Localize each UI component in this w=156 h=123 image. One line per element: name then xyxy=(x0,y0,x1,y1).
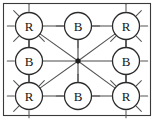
node-label: B xyxy=(122,54,131,69)
graph-node-middle-right[interactable]: B xyxy=(113,48,140,75)
node-stub-tick xyxy=(39,36,44,41)
node-stub-tick xyxy=(39,81,44,86)
node-stub-tick xyxy=(14,106,19,111)
graph-node-bottom-right[interactable]: R xyxy=(113,83,140,110)
graph-node-center-hub[interactable] xyxy=(76,59,80,63)
graph-node-middle-left[interactable]: B xyxy=(16,48,43,75)
node-stub-tick xyxy=(14,11,19,16)
hub-dot[interactable] xyxy=(76,59,80,63)
node-stub-tick xyxy=(136,11,141,16)
node-stub-tick xyxy=(136,81,141,86)
node-label: R xyxy=(122,19,131,34)
graph-node-bottom-center[interactable]: B xyxy=(65,83,92,110)
node-label: R xyxy=(25,89,34,104)
graph-node-top-right[interactable]: R xyxy=(113,13,140,40)
diagram-canvas: RBRBBRBR xyxy=(0,0,156,123)
node-stub-tick xyxy=(14,36,19,41)
graph-diagram-svg: RBRBBRBR xyxy=(0,0,156,123)
node-label: R xyxy=(122,89,131,104)
graph-node-top-left[interactable]: R xyxy=(16,13,43,40)
node-stub-tick xyxy=(136,106,141,111)
node-label: B xyxy=(74,89,83,104)
node-label: B xyxy=(25,54,34,69)
node-label: R xyxy=(25,19,34,34)
node-stub-tick xyxy=(14,81,19,86)
node-layer: RBRBBRBR xyxy=(16,13,140,110)
node-stub-tick xyxy=(136,36,141,41)
graph-node-top-center[interactable]: B xyxy=(65,13,92,40)
node-label: B xyxy=(74,19,83,34)
graph-node-bottom-left[interactable]: R xyxy=(16,83,43,110)
